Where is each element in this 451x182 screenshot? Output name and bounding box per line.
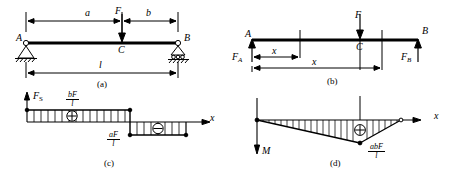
shear-positive-denominator: l — [66, 99, 79, 108]
shear-x-axis-label: x — [210, 113, 214, 123]
load-arrow-head-fbd — [357, 30, 364, 39]
moment-node-peak — [358, 141, 362, 145]
pin-support-hatch — [16, 59, 35, 63]
arrowhead-x-right-end — [374, 66, 380, 71]
node-a — [23, 40, 28, 45]
shear-axis-subscript: S — [39, 95, 43, 103]
dim-label-l: l — [99, 60, 102, 70]
moment-x-axis-label: x — [434, 111, 438, 121]
moment-max-numerator: abF — [368, 143, 385, 151]
shear-positive-numerator: bF — [66, 91, 79, 99]
reaction-label-b: FB — [401, 52, 411, 64]
arrowhead-a-left — [28, 19, 34, 24]
roller-support-triangle — [171, 46, 185, 55]
reaction-label-a: FA — [232, 52, 242, 64]
panel-caption-c: (c) — [104, 158, 114, 168]
dim-label-a: a — [85, 8, 90, 18]
arrowhead-b-right — [170, 19, 176, 24]
shear-node-end — [184, 133, 188, 137]
arrowhead-b-left — [124, 19, 130, 24]
moment-node-end — [399, 118, 403, 122]
panel-caption-d: (d) — [330, 158, 341, 168]
moment-right-slope — [360, 120, 401, 143]
panel-a-graphics — [0, 0, 226, 91]
moment-max-denominator: l — [368, 151, 385, 160]
shear-axis-x-arrow — [202, 119, 210, 124]
shear-negative-numerator: aF — [107, 131, 120, 139]
dim-label-x-right: x — [312, 57, 316, 67]
arrowhead-x-right-start — [254, 66, 260, 71]
dim-label-b: b — [146, 8, 151, 18]
shear-positive-hatching — [34, 110, 125, 122]
moment-axis-x-arrow — [413, 117, 421, 122]
reaction-a-subscript: A — [238, 56, 242, 64]
moment-left-slope — [257, 120, 360, 143]
end-label-a-fbd: A — [245, 29, 251, 39]
beam-diagram-figure: a F b A B C l (a) — [0, 0, 451, 182]
shear-positive-value: bF l — [66, 91, 79, 108]
moment-node-start — [255, 118, 259, 122]
load-label-f-b: F — [355, 10, 361, 20]
node-b — [175, 40, 180, 45]
moment-axis-y-arrow — [254, 145, 259, 154]
arrowhead-l-left — [28, 71, 34, 76]
moment-hatching — [263, 120, 397, 141]
arrowhead-a-right — [114, 19, 120, 24]
support-label-b: B — [184, 33, 190, 43]
arrowhead-x-left-start — [254, 55, 260, 60]
shear-node-c-bottom — [128, 133, 132, 137]
roller-1 — [172, 55, 176, 59]
moment-max-value: abF l — [368, 143, 385, 160]
roller-2 — [176, 55, 180, 59]
shear-node-c-top — [128, 108, 132, 112]
pin-support-triangle — [18, 46, 34, 58]
shear-negative-denominator: l — [107, 139, 120, 148]
shear-negative-value: aF l — [107, 131, 120, 148]
support-label-a: A — [16, 33, 22, 43]
dim-label-x-left: x — [272, 46, 276, 56]
point-label-c-b: C — [356, 42, 363, 52]
point-label-c-a: C — [118, 45, 125, 55]
moment-axis-label: M — [262, 146, 270, 156]
panel-b-graphics — [226, 0, 451, 91]
roller-3 — [181, 55, 185, 59]
end-label-b-fbd: B — [422, 26, 428, 36]
shear-node-start — [25, 108, 29, 112]
shear-axis-label: FS — [33, 91, 43, 103]
reaction-b-subscript: B — [407, 56, 411, 64]
load-arrow-head — [119, 33, 126, 42]
shear-axis-y-arrow — [24, 92, 29, 100]
panel-caption-b: (b) — [327, 76, 338, 86]
arrowhead-l-right — [170, 71, 176, 76]
load-label-f-a: F — [115, 6, 121, 16]
arrowhead-x-left-end — [292, 55, 298, 60]
